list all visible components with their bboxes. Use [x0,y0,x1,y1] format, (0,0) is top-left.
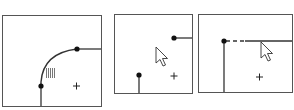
end-node[interactable] [171,35,176,40]
start-node[interactable] [38,83,43,88]
end-node[interactable] [74,46,79,51]
hatched-handle[interactable] [46,68,55,78]
panel-2-content [136,35,192,93]
start-node[interactable] [136,72,141,77]
crosshair-icon [73,83,80,90]
pointer-cursor-icon [261,42,273,61]
panel-1-content [38,46,101,106]
crosshair-icon [256,74,263,81]
pointer-cursor-icon [156,47,168,66]
corner-node[interactable] [221,38,226,43]
crosshair-icon [171,73,178,80]
diagram-canvas [0,0,294,110]
panel-3-content [221,38,292,92]
